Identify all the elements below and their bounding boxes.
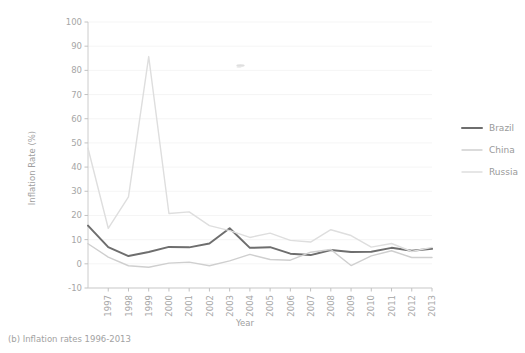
- chart-background: [0, 0, 525, 353]
- x-tick-label: 2003: [225, 295, 235, 317]
- y-tick-label: 100: [66, 17, 82, 27]
- figure-caption-wrap: (b) Inflation rates 1996-2013: [0, 330, 525, 353]
- y-tick-label: 70: [71, 90, 82, 100]
- legend-label-russia: Russia: [489, 167, 518, 177]
- y-tick-label: 40: [71, 162, 82, 172]
- x-axis-title: Year: [235, 318, 255, 328]
- y-tick-label: 30: [71, 186, 82, 196]
- x-tick-label: 2008: [326, 295, 336, 317]
- x-tick-label: 2011: [387, 295, 397, 317]
- x-tick-label: 2006: [286, 295, 296, 317]
- y-tick-label: 50: [71, 138, 82, 148]
- x-tick-label: 2010: [366, 295, 376, 317]
- x-tick-label: 2013: [427, 295, 437, 317]
- y-tick-label: 0: [77, 259, 82, 269]
- x-tick-label: 2012: [407, 295, 417, 317]
- legend-label-china: China: [489, 145, 515, 155]
- x-tick-label: 1998: [124, 295, 134, 317]
- y-tick-label: 60: [71, 114, 82, 124]
- x-tick-label: 1997: [103, 295, 113, 317]
- x-tick-label: 2004: [245, 295, 255, 317]
- inflation-rates-figure: -100102030405060708090100 19971998199920…: [0, 0, 525, 353]
- x-tick-label: 1999: [144, 295, 154, 317]
- legend-label-brazil: Brazil: [489, 123, 514, 133]
- x-tick-label: 2007: [306, 295, 316, 317]
- x-tick-label: 2000: [164, 295, 174, 317]
- x-tick-labels: 1997199819992000200120022003200420052006…: [103, 295, 437, 317]
- x-tick-label: 2005: [265, 295, 275, 317]
- x-tick-label: 2001: [184, 295, 194, 317]
- y-tick-label: -10: [68, 283, 82, 293]
- figure-caption: (b) Inflation rates 1996-2013: [8, 334, 131, 344]
- x-tick-label: 2009: [346, 295, 356, 317]
- x-tick-label: 2002: [205, 295, 215, 317]
- y-axis-title: Inflation Rate (%): [27, 131, 37, 205]
- y-tick-label: 20: [71, 210, 82, 220]
- y-tick-label: 10: [71, 235, 82, 245]
- y-tick-label: 90: [71, 41, 82, 51]
- line-chart: -100102030405060708090100 19971998199920…: [0, 0, 525, 353]
- y-tick-label: 80: [71, 65, 82, 75]
